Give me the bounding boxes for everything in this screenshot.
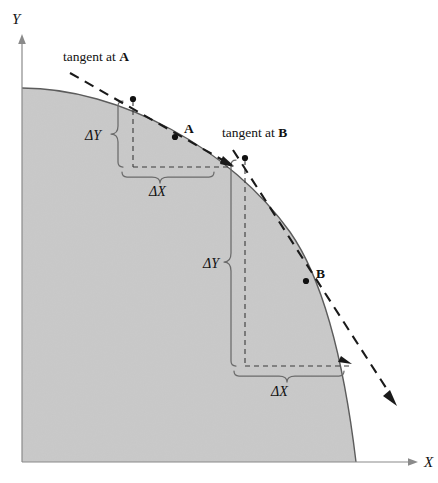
tangent-a-caption-point: A xyxy=(119,49,129,64)
delta-a-x-label: ΔX xyxy=(148,184,166,199)
tangent-a-caption: tangent at A xyxy=(63,49,129,64)
delta-a-y-label: ΔY xyxy=(84,128,103,143)
tangent-b-arrowhead xyxy=(383,390,397,406)
figure-root: Y X ΔY ΔX ΔY ΔX xyxy=(0,0,438,483)
tangent-b-caption: tangent at B xyxy=(222,125,287,140)
x-axis-arrowhead xyxy=(408,458,418,466)
point-b-label: B xyxy=(316,266,325,281)
tangent-b-caption-point: B xyxy=(278,125,287,140)
tangent-b-touch-dot xyxy=(242,155,248,161)
point-a-dot xyxy=(172,134,178,140)
ppf-tangent-diagram: Y X ΔY ΔX ΔY ΔX xyxy=(0,0,438,483)
y-axis-label: Y xyxy=(12,11,22,27)
point-b-dot xyxy=(303,278,309,284)
delta-b-y-label: ΔY xyxy=(202,256,221,271)
point-a-label: A xyxy=(184,121,194,136)
x-axis-label: X xyxy=(423,454,434,470)
tangent-b-caption-prefix: tangent at xyxy=(222,125,278,140)
frontier-region xyxy=(0,0,438,483)
tangent-a-caption-prefix: tangent at xyxy=(63,49,119,64)
delta-b-x-label: ΔX xyxy=(270,384,288,399)
y-axis-arrowhead xyxy=(18,34,26,44)
tangent-a-touch-dot xyxy=(130,96,136,102)
